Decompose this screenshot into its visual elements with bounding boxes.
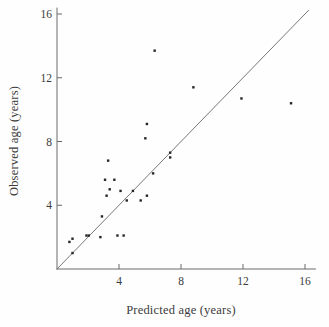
data-point xyxy=(146,123,148,125)
data-point xyxy=(290,102,292,104)
data-point xyxy=(71,252,73,254)
data-point xyxy=(146,194,148,196)
chart-canvas: 481216481216 xyxy=(0,0,329,327)
y-axis-label: Observed age (years) xyxy=(7,86,22,196)
data-point xyxy=(71,238,73,240)
data-point xyxy=(192,86,194,88)
data-point xyxy=(113,179,115,181)
data-point xyxy=(132,190,134,192)
data-point xyxy=(101,215,103,217)
x-tick-label: 4 xyxy=(116,275,122,287)
x-axis-label: Predicted age (years) xyxy=(126,303,236,318)
y-tick-label: 8 xyxy=(46,136,52,148)
data-point xyxy=(122,234,124,236)
identity-line xyxy=(57,10,309,269)
data-point xyxy=(152,172,154,174)
x-tick-label: 12 xyxy=(237,275,249,287)
data-point xyxy=(153,49,155,51)
data-point xyxy=(240,97,242,99)
data-point xyxy=(105,194,107,196)
data-point xyxy=(169,156,171,158)
y-tick-label: 16 xyxy=(41,8,53,20)
data-point xyxy=(68,241,70,243)
data-point xyxy=(88,234,90,236)
data-point xyxy=(144,137,146,139)
y-tick-label: 12 xyxy=(41,72,53,84)
data-point xyxy=(140,199,142,201)
data-point xyxy=(126,199,128,201)
data-point xyxy=(109,188,111,190)
data-point xyxy=(99,236,101,238)
scatter-plot-figure: 481216481216 Predicted age (years) Obser… xyxy=(0,0,329,327)
x-tick-label: 8 xyxy=(178,275,184,287)
data-point xyxy=(119,190,121,192)
data-point xyxy=(85,234,87,236)
data-point xyxy=(104,179,106,181)
data-point xyxy=(116,234,118,236)
y-tick-label: 4 xyxy=(46,199,52,211)
data-point xyxy=(169,151,171,153)
data-point xyxy=(107,159,109,161)
x-tick-label: 16 xyxy=(299,275,311,287)
